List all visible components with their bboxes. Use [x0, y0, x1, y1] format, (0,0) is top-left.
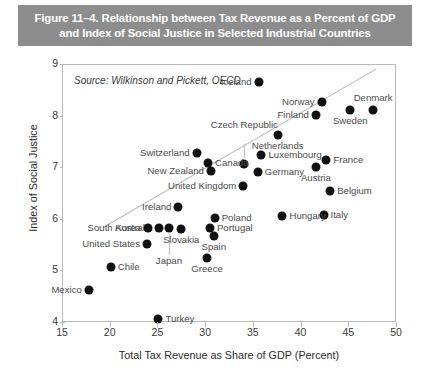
x-tick-label: 35 — [238, 326, 268, 338]
data-point-label: Denmark — [354, 93, 393, 104]
y-axis-label: Index of Social Justice — [27, 98, 39, 258]
x-axis-label: Total Tax Revenue as Share of GDP (Perce… — [62, 349, 396, 361]
data-point[interactable] — [203, 253, 212, 262]
data-point[interactable] — [106, 263, 115, 272]
x-tick-mark — [205, 322, 206, 327]
data-point-label: Luxembourg — [268, 150, 321, 161]
data-point[interactable] — [239, 181, 248, 190]
y-tick-label: 7 — [38, 160, 58, 172]
data-point-label: Portugal — [217, 222, 253, 233]
data-point-label: Sweden — [333, 116, 368, 127]
data-point-label: Turkey — [165, 314, 194, 325]
figure-title-band: Figure 11–4. Relationship between Tax Re… — [18, 5, 412, 46]
data-point[interactable] — [326, 187, 335, 196]
data-point-label: South Korea — [88, 222, 141, 233]
y-tick-label: 6 — [38, 212, 58, 224]
data-point[interactable] — [311, 111, 320, 120]
data-point[interactable] — [142, 240, 151, 249]
x-tick-label: 15 — [47, 326, 77, 338]
figure-container: Figure 11–4. Relationship between Tax Re… — [0, 0, 430, 374]
data-point-label: Mexico — [51, 285, 81, 296]
data-point[interactable] — [206, 167, 215, 176]
data-point-label: United Kingdom — [168, 180, 236, 191]
data-point[interactable] — [174, 202, 183, 211]
data-point-label: Norway — [282, 97, 315, 108]
data-point[interactable] — [192, 149, 201, 158]
figure-title-line-2: and Index of Social Justice in Selected … — [59, 26, 370, 41]
data-point-label: Ireland — [142, 202, 171, 213]
data-point[interactable] — [322, 155, 331, 164]
data-point-label: Canada — [215, 158, 249, 169]
x-tick-mark — [396, 322, 397, 327]
y-tick-label: 8 — [38, 109, 58, 121]
x-tick-label: 20 — [95, 326, 125, 338]
data-point-label: Germany — [265, 167, 304, 178]
data-point[interactable] — [154, 315, 163, 324]
data-point[interactable] — [253, 167, 262, 176]
data-point-label: Finland — [277, 110, 308, 121]
figure-title-line-1: Figure 11–4. Relationship between Tax Re… — [35, 11, 396, 26]
data-point[interactable] — [155, 223, 164, 232]
data-point-label: Hungary — [289, 210, 325, 221]
data-point-label: Greece — [191, 264, 222, 275]
data-point[interactable] — [257, 150, 266, 159]
data-point-label: Italy — [331, 209, 349, 220]
x-tick-label: 25 — [142, 326, 172, 338]
data-point[interactable] — [311, 162, 320, 171]
x-tick-label: 50 — [381, 326, 411, 338]
data-point[interactable] — [209, 232, 218, 241]
data-point-label: Slovakia — [163, 235, 199, 246]
x-tick-mark — [348, 322, 349, 327]
data-point[interactable] — [84, 286, 93, 295]
x-tick-label: 45 — [333, 326, 363, 338]
data-point-label: Spain — [201, 242, 226, 253]
data-point[interactable] — [205, 223, 214, 232]
data-point[interactable] — [346, 106, 355, 115]
data-point-label: Chile — [118, 262, 140, 273]
data-point-label: France — [333, 155, 363, 166]
x-tick-mark — [110, 322, 111, 327]
data-point-label: Austria — [301, 173, 331, 184]
data-point[interactable] — [273, 130, 282, 139]
plot-inner: Source: Wilkinson and Pickett, OECD Icel… — [63, 65, 395, 321]
y-tick-label: 5 — [38, 263, 58, 275]
data-point[interactable] — [278, 211, 287, 220]
data-point-label: United States — [82, 239, 140, 250]
data-point-label: New Zealand — [147, 166, 204, 177]
data-point-label: Czech Republic — [211, 120, 278, 131]
x-tick-label: 30 — [190, 326, 220, 338]
source-note: Source: Wilkinson and Pickett, OECD — [74, 75, 241, 86]
scatter-chart: 456789 Index of Social Justice Source: W… — [0, 46, 430, 374]
data-point[interactable] — [254, 77, 263, 86]
plot-area: Source: Wilkinson and Pickett, OECD Icel… — [62, 64, 396, 322]
data-point[interactable] — [317, 98, 326, 107]
y-tick-label: 9 — [38, 57, 58, 69]
x-tick-mark — [253, 322, 254, 327]
data-point[interactable] — [369, 106, 378, 115]
data-point-label: Belgium — [337, 186, 372, 197]
label-leader-line — [244, 144, 245, 158]
x-tick-mark — [301, 322, 302, 327]
data-point-label: Iceland — [221, 76, 252, 87]
data-point-label: Japan — [156, 256, 182, 267]
data-point[interactable] — [164, 223, 173, 232]
data-point[interactable] — [143, 223, 152, 232]
x-tick-label: 40 — [286, 326, 316, 338]
data-point[interactable] — [177, 224, 186, 233]
x-tick-mark — [157, 322, 158, 327]
data-point-label: Switzerland — [140, 148, 190, 159]
x-tick-mark — [62, 322, 63, 327]
